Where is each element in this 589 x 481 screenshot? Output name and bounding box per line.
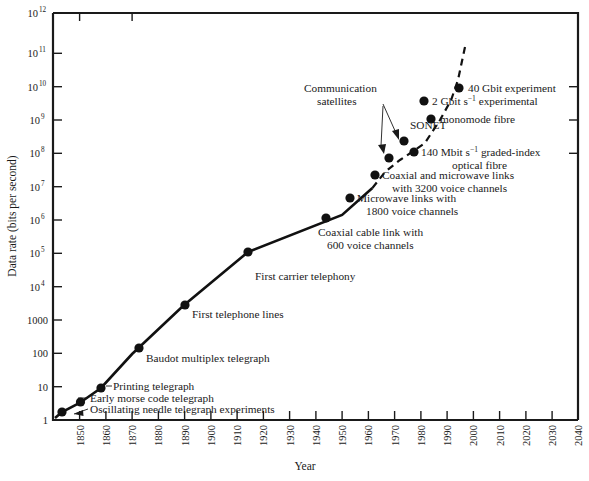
svg-text:10: 10 bbox=[30, 148, 41, 159]
x-tick-1980: 1980 bbox=[416, 425, 427, 446]
data-point-comsat-1 bbox=[384, 153, 393, 162]
x-axis-ticks-top bbox=[80, 13, 133, 21]
annotation-label-line1: 140 Mbit s−1 graded-index bbox=[421, 145, 541, 158]
x-tick-1960: 1960 bbox=[363, 425, 374, 446]
y-tick-100: 100 bbox=[32, 348, 48, 359]
data-point-microwave-1800 bbox=[345, 193, 354, 202]
y-tick-1e9: 10 9 bbox=[30, 113, 46, 126]
y-tick-1: 1 bbox=[43, 415, 48, 426]
annotation-label-line2: 1800 voice channels bbox=[366, 205, 458, 217]
data-point-coaxial-microwave-3200 bbox=[370, 170, 379, 179]
axis-frame bbox=[53, 13, 578, 420]
leader-line-upper bbox=[383, 104, 396, 133]
x-tick-1880: 1880 bbox=[153, 425, 164, 446]
svg-text:10: 10 bbox=[28, 48, 39, 59]
annotation-40-gbit-experiment: 40 Gbit experiment bbox=[468, 82, 557, 94]
x-axis-tick-labels: 1850 1860 1870 1880 1890 1900 1910 1920 … bbox=[75, 425, 584, 446]
y-tick-1e6: 10 6 bbox=[30, 213, 46, 226]
svg-text:9: 9 bbox=[41, 113, 45, 121]
x-tick-1950: 1950 bbox=[337, 425, 348, 446]
svg-text:8: 8 bbox=[41, 146, 45, 154]
data-rate-vs-year-chart: 1 10 100 1000 10 4 10 5 10 6 10 7 10 8 1… bbox=[0, 0, 589, 481]
series-solid-segment bbox=[55, 188, 372, 418]
svg-text:10: 10 bbox=[30, 248, 41, 259]
arrow-head-upper bbox=[392, 129, 399, 140]
y-tick-1e8: 10 8 bbox=[30, 146, 46, 159]
annotation-label-line2: with 3200 voice channels bbox=[392, 182, 507, 194]
data-point-coaxial-600 bbox=[321, 213, 330, 222]
svg-text:7: 7 bbox=[41, 180, 45, 188]
svg-text:12: 12 bbox=[39, 6, 47, 14]
svg-text:10: 10 bbox=[28, 8, 39, 19]
annotation-printing-telegraph: Printing telegraph bbox=[106, 380, 195, 392]
x-tick-1910: 1910 bbox=[232, 425, 243, 446]
svg-text:4: 4 bbox=[41, 280, 45, 288]
x-tick-1850: 1850 bbox=[75, 425, 86, 446]
arrow-head bbox=[74, 410, 84, 416]
annotation-coaxial-600: Coaxial cable link with 600 voice channe… bbox=[318, 226, 423, 251]
y-tick-1000: 1000 bbox=[27, 315, 48, 326]
annotation-label-line2: optical fibre bbox=[452, 159, 507, 171]
x-tick-1870: 1870 bbox=[127, 425, 138, 446]
svg-text:10: 10 bbox=[28, 82, 39, 93]
y-tick-1e10: 10 10 bbox=[28, 80, 47, 93]
svg-text:10: 10 bbox=[30, 282, 41, 293]
y-axis-tick-labels: 1 10 100 1000 10 4 10 5 10 6 10 7 10 8 1… bbox=[27, 6, 48, 426]
y-tick-1e4: 10 4 bbox=[30, 280, 46, 293]
data-point-graded-index-fibre bbox=[409, 147, 418, 156]
x-tick-2030: 2030 bbox=[547, 425, 558, 446]
x-tick-2000: 2000 bbox=[468, 425, 479, 446]
x-tick-1970: 1970 bbox=[390, 425, 401, 446]
annotation-label-line1: Communication bbox=[304, 82, 377, 94]
x-tick-1890: 1890 bbox=[180, 425, 191, 446]
data-point-oscillating-needle bbox=[57, 407, 66, 416]
y-axis-ticks bbox=[53, 13, 62, 420]
annotation-oscillating-needle: Oscillating needle telegraph experiments bbox=[74, 403, 275, 416]
annotation-baudot: Baudot multiplex telegraph bbox=[146, 352, 270, 364]
annotation-monomode-fibre: monomode fibre bbox=[440, 113, 515, 125]
annotation-early-morse: Early morse code telegraph bbox=[78, 392, 214, 404]
svg-text:10: 10 bbox=[30, 182, 41, 193]
x-axis-title: Year bbox=[294, 460, 315, 472]
y-tick-1e7: 10 7 bbox=[30, 180, 46, 193]
data-point-40-gbit-experiment bbox=[454, 83, 463, 92]
x-tick-2040: 2040 bbox=[573, 425, 584, 446]
annotation-first-telephone-lines: First telephone lines bbox=[192, 308, 284, 320]
annotation-label-line1: Coaxial cable link with bbox=[318, 226, 423, 238]
data-point-early-morse bbox=[76, 397, 85, 406]
arrow-head-lower bbox=[378, 144, 386, 154]
annotation-graded-index-fibre: 140 Mbit s−1 graded-index optical fibre bbox=[421, 145, 541, 171]
x-tick-1860: 1860 bbox=[101, 425, 112, 446]
annotation-label-line2: satellites bbox=[317, 95, 357, 107]
annotation-label: Early morse code telegraph bbox=[90, 392, 214, 404]
svg-text:5: 5 bbox=[41, 246, 45, 254]
annotation-label: Printing telegraph bbox=[113, 380, 195, 392]
leader-line-lower bbox=[381, 106, 383, 146]
y-axis-ticks-right bbox=[569, 87, 578, 154]
data-point-comsat-2 bbox=[399, 136, 408, 145]
x-tick-1940: 1940 bbox=[311, 425, 322, 446]
annotation-microwave-1800: Microwave links with 1800 voice channels bbox=[357, 192, 458, 217]
y-axis-title: Data rate (bits per second) bbox=[6, 155, 19, 277]
y-tick-1e5: 10 5 bbox=[30, 246, 46, 259]
svg-text:10: 10 bbox=[30, 215, 41, 226]
svg-text:11: 11 bbox=[39, 46, 46, 54]
annotation-label: Oscillating needle telegraph experiments bbox=[90, 403, 275, 415]
y-tick-10: 10 bbox=[38, 382, 49, 393]
data-point-first-carrier-telephony bbox=[243, 247, 252, 256]
x-tick-2010: 2010 bbox=[495, 425, 506, 446]
annotation-label-line2: 600 voice channels bbox=[327, 239, 414, 251]
data-point-baudot bbox=[134, 343, 143, 352]
annotation-communication-satellites: Communication satellites bbox=[304, 82, 399, 154]
x-tick-1930: 1930 bbox=[285, 425, 296, 446]
x-tick-1920: 1920 bbox=[258, 425, 269, 446]
svg-text:10: 10 bbox=[39, 80, 47, 88]
data-point-2-gbit-experimental bbox=[419, 96, 428, 105]
data-point-first-telephone-lines bbox=[180, 300, 189, 309]
svg-text:6: 6 bbox=[41, 213, 45, 221]
x-tick-1900: 1900 bbox=[206, 425, 217, 446]
svg-text:10: 10 bbox=[30, 115, 41, 126]
axis-lines bbox=[53, 13, 578, 420]
y-tick-1e12: 10 12 bbox=[28, 6, 47, 19]
x-tick-1990: 1990 bbox=[442, 425, 453, 446]
